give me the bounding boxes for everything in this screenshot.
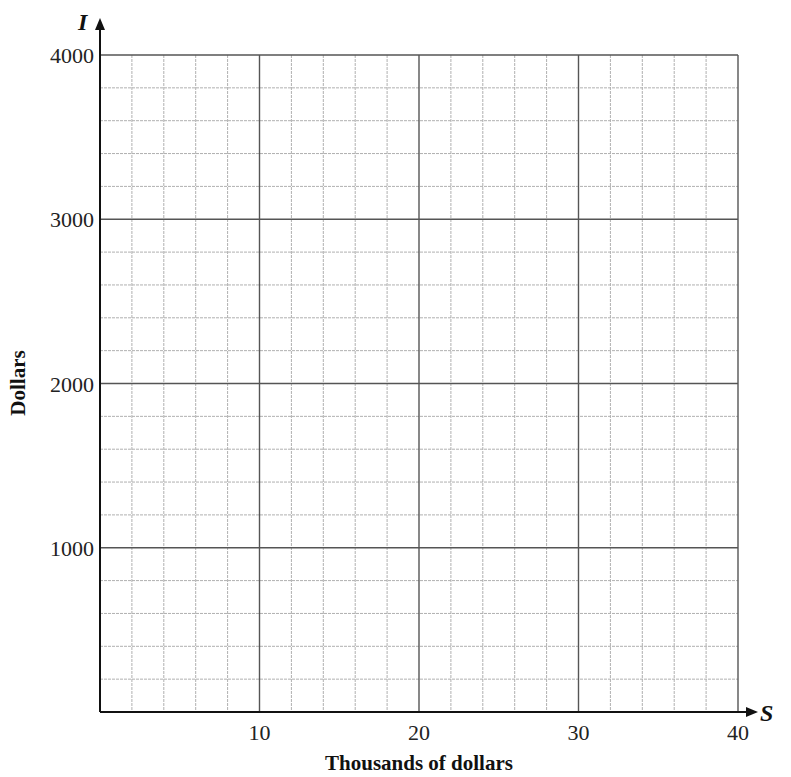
x-variable-label: S	[760, 700, 773, 726]
x-axis-arrow-icon	[746, 707, 758, 717]
x-axis-title: Thousands of dollars	[325, 751, 513, 775]
y-axis-title: Dollars	[6, 350, 30, 415]
x-tick-label: 10	[249, 720, 271, 745]
x-tick-label: 40	[727, 720, 749, 745]
y-tick-label: 2000	[50, 372, 94, 397]
y-tick-label: 1000	[50, 536, 94, 561]
y-tick-label: 4000	[50, 43, 94, 68]
x-tick-label: 20	[408, 720, 430, 745]
x-tick-labels: 10203040	[249, 720, 750, 745]
x-tick-label: 30	[568, 720, 590, 745]
y-axis-arrow-icon	[95, 18, 105, 30]
y-tick-label: 3000	[50, 207, 94, 232]
y-tick-labels: 1000200030004000	[50, 43, 94, 561]
axes	[95, 18, 758, 717]
y-variable-label: I	[77, 9, 89, 35]
graph-paper-chart: 10203040 1000200030004000 S I Thousands …	[0, 0, 791, 777]
